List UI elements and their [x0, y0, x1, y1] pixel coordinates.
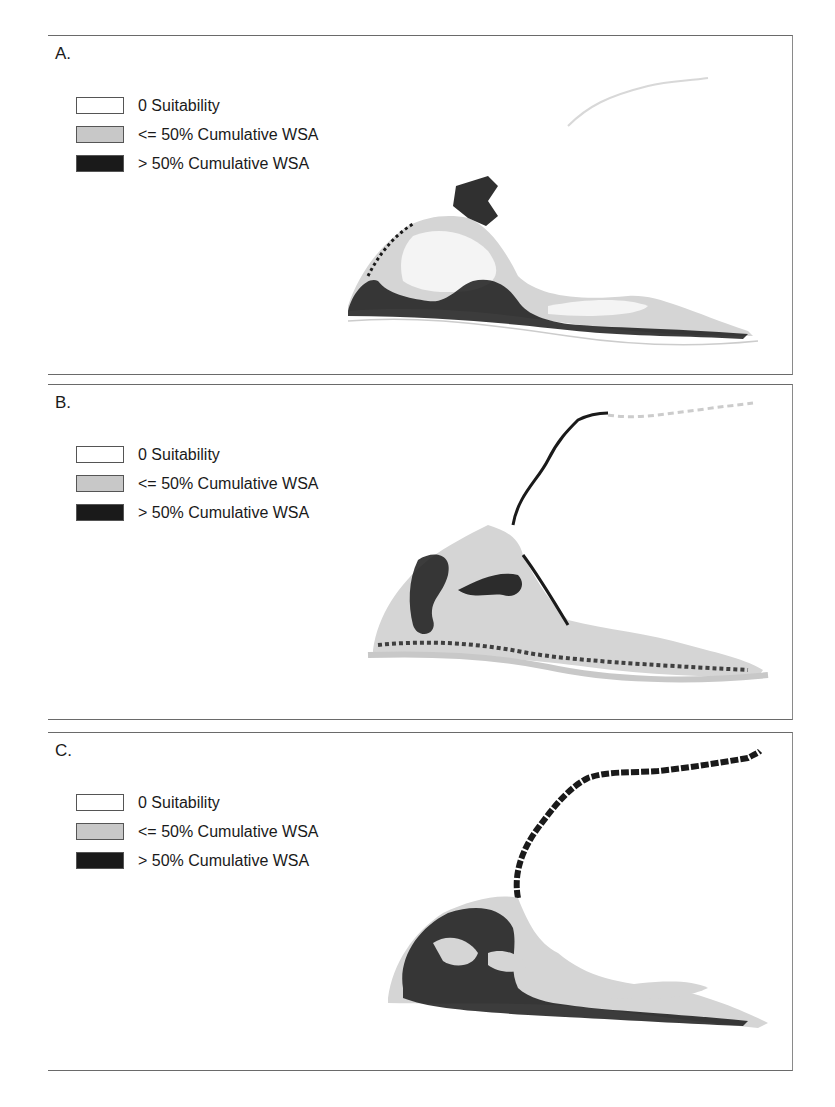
- channel-outline: [568, 78, 708, 126]
- map-panel-b: B. 0 Suitability <= 50% Cumulative WSA >…: [48, 384, 793, 720]
- channel-high: [517, 751, 760, 898]
- map-panel-c: C. 0 Suitability <= 50% Cumulative WSA >…: [48, 732, 793, 1071]
- map-panel-a: A. 0 Suitability <= 50% Cumulative WSA >…: [48, 35, 793, 375]
- suitability-map-a: [48, 36, 793, 376]
- suitability-map-c: [48, 733, 793, 1072]
- suitability-map-b: [48, 385, 793, 721]
- channel-low: [608, 403, 753, 417]
- channel-high: [513, 413, 608, 525]
